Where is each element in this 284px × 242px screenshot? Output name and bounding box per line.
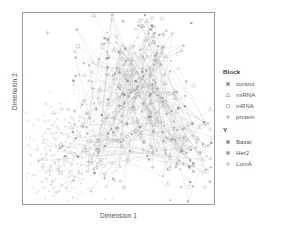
legend-block-item-row: control — [223, 79, 255, 89]
legend-y-item-label: Her2 — [236, 150, 249, 156]
plus-icon — [223, 159, 236, 169]
legend-block: Block controlmiRNAmRNAprotein — [223, 68, 255, 123]
filled-square-icon — [223, 79, 236, 89]
chart-root: Dimension 1 Dimension 2 Block controlmiR… — [0, 0, 284, 242]
filled-square-icon — [223, 148, 236, 158]
plot-panel — [22, 12, 215, 205]
x-axis-label: Dimension 1 — [22, 212, 215, 219]
legend-y-item-label: Basal — [236, 139, 251, 145]
legend-block-items: controlmiRNAmRNAprotein — [223, 79, 255, 122]
legend-block-item-row: protein — [223, 112, 255, 122]
scatter-plot-area — [22, 12, 215, 205]
filled-square-icon — [223, 137, 236, 147]
triangle-icon — [223, 90, 236, 100]
legend-block-item-row: miRNA — [223, 90, 255, 100]
legend-y-item-row: LumA — [223, 159, 252, 169]
legend-block-item-row: mRNA — [223, 101, 255, 111]
legend-y-item-row: Basal — [223, 137, 252, 147]
legend-y: Y BasalHer2LumA — [223, 126, 252, 170]
open-circle-icon — [223, 101, 236, 111]
legend-block-item-label: control — [236, 81, 254, 87]
plus-icon — [223, 112, 236, 122]
edge-layer — [38, 15, 212, 202]
legend-y-title: Y — [223, 126, 252, 133]
legend-block-item-label: protein — [236, 114, 255, 120]
legend-block-item-label: mRNA — [236, 103, 254, 109]
y-axis-label: Dimension 2 — [11, 42, 18, 142]
legend-y-item-label: LumA — [236, 161, 252, 167]
legend-y-items: BasalHer2LumA — [223, 137, 252, 169]
legend-block-item-label: miRNA — [236, 92, 255, 98]
y-axis-label-wrapper: Dimension 2 — [11, 42, 18, 142]
legend-y-item-row: Her2 — [223, 148, 252, 158]
legend-block-title: Block — [223, 68, 255, 75]
